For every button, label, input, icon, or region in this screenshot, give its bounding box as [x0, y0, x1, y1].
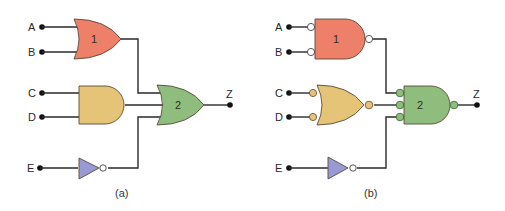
inverter	[79, 158, 99, 179]
panel-a: A B C D E 1 2 Z (a)	[27, 19, 233, 199]
gate-2-label: 2	[175, 99, 181, 111]
gate-1-label: 1	[333, 33, 339, 45]
bubble-icon	[309, 89, 316, 96]
bubble-icon	[450, 101, 458, 109]
input-label-d: D	[28, 111, 36, 123]
bubble-icon	[307, 48, 314, 55]
inverter	[328, 157, 348, 179]
input-label-e: E	[27, 162, 34, 174]
output-label-z: Z	[226, 88, 233, 100]
bubble-icon	[307, 23, 314, 30]
bubble-icon	[309, 113, 316, 120]
bubble-icon	[396, 101, 404, 109]
input-label-e: E	[275, 162, 282, 174]
bubble-icon	[365, 101, 373, 109]
and-gate-2	[404, 86, 450, 124]
input-label-a: A	[28, 21, 36, 33]
input-label-a: A	[275, 21, 283, 33]
or-gate	[317, 85, 364, 125]
wire-not-to-gate2	[108, 117, 163, 168]
input-label-d: D	[275, 111, 283, 123]
bubble-icon	[396, 113, 404, 121]
terminal-z	[474, 102, 480, 108]
and-gate-1	[315, 19, 365, 59]
or-gate-1	[74, 19, 121, 59]
inverter-bubble-icon	[350, 165, 356, 171]
caption-a: (a)	[115, 187, 128, 199]
and-gate	[79, 86, 124, 124]
output-label-z: Z	[473, 88, 480, 100]
gate-1-label: 1	[91, 33, 97, 45]
input-label-b: B	[275, 46, 282, 58]
logic-diagram: A B C D E 1 2 Z (a)	[0, 0, 505, 211]
input-label-c: C	[28, 87, 36, 99]
input-label-c: C	[275, 87, 283, 99]
panel-b: A B C D E 1 2	[275, 19, 480, 199]
bubble-icon	[365, 35, 372, 42]
input-label-b: B	[28, 46, 35, 58]
wire-not-to-gate2	[357, 117, 398, 168]
inverter-bubble-icon	[100, 165, 106, 171]
wire-gate1-to-gate2	[373, 39, 398, 93]
bubble-icon	[396, 89, 404, 97]
gate-2-label: 2	[417, 99, 423, 111]
terminal-z	[227, 102, 233, 108]
caption-b: (b)	[364, 187, 377, 199]
